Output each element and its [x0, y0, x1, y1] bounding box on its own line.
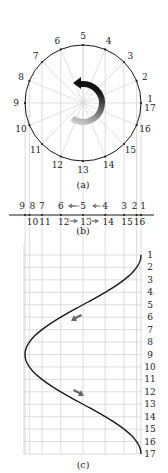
axis-lower-label: 16	[134, 217, 146, 227]
axis-upper-label: 5	[80, 201, 86, 211]
graph-row-label: 1	[147, 250, 153, 260]
circle-point-marker	[28, 80, 30, 82]
circle-point-marker	[135, 80, 137, 82]
graph-row-label: 9	[147, 350, 153, 360]
axis-upper-label: 3	[121, 201, 127, 211]
circle-point-label: 7	[33, 51, 39, 61]
arrow-left-icon	[68, 204, 80, 209]
graph-row-label: 7	[147, 325, 153, 335]
graph-row-labels: 1234567891011121314151617	[144, 250, 156, 459]
axis-point-marker	[28, 214, 30, 216]
caption-b: (b)	[76, 225, 90, 236]
axis-point-marker	[60, 214, 62, 216]
circle-point-label: 6	[54, 36, 60, 46]
graph-row-label: 12	[144, 387, 155, 397]
axis-point-marker	[24, 214, 26, 216]
axis-point-marker	[82, 214, 84, 216]
axis-upper-label: 4	[102, 201, 108, 211]
circle-point-label: 16	[139, 124, 151, 134]
axis-lower-label: 12	[58, 217, 69, 227]
circle-point-label: 14	[103, 160, 115, 170]
circle-point-label: 5	[80, 31, 86, 41]
circle-point-label: 8	[18, 72, 24, 82]
caption-a: (a)	[76, 179, 89, 190]
circle-point-label: 2	[142, 72, 148, 82]
curve-direction-arrows	[71, 314, 84, 396]
circle-point-marker	[60, 155, 62, 157]
circle-point-label: 10	[15, 124, 27, 134]
axis-upper-label: 8	[30, 201, 36, 211]
graph-row-label: 4	[147, 287, 153, 297]
circle-point-marker	[41, 61, 43, 63]
circle-point-label: 17	[144, 103, 156, 113]
graph-row-label: 16	[144, 437, 156, 447]
graph-row-label: 15	[144, 424, 156, 434]
graph-row-label: 17	[144, 449, 156, 459]
circle-point-marker	[104, 155, 106, 157]
axis-lower-label: 10	[27, 217, 39, 227]
axis-lower-label: 15	[121, 217, 133, 227]
curve-arrow-down-right-icon	[73, 389, 84, 396]
circle-point-marker	[140, 102, 142, 104]
circle-point-label: 11	[30, 145, 41, 155]
axis-upper-label: 2	[132, 201, 138, 211]
circle-point-label: 12	[52, 160, 63, 170]
circle-point-label: 3	[128, 51, 134, 61]
circle-projection-figure: 1234567891011121314151617 (a) 987654321 …	[0, 0, 168, 473]
circle-point-marker	[82, 44, 84, 46]
axis-point-marker	[104, 214, 106, 216]
graph-row-label: 2	[147, 262, 153, 272]
circle-point-marker	[24, 102, 26, 104]
axis-upper-labels: 987654321	[19, 201, 146, 211]
axis-point-marker	[123, 214, 125, 216]
graph-row-label: 13	[144, 399, 156, 409]
graph-row-label: 8	[147, 337, 153, 347]
circle-point-label: 15	[125, 145, 137, 155]
circle-point-marker	[82, 160, 84, 162]
graph-row-label: 6	[147, 312, 153, 322]
axis-point-marker	[140, 214, 142, 216]
axis-point-markers	[24, 214, 142, 216]
circle-point-marker	[135, 124, 137, 126]
circle-point-label: 13	[77, 165, 89, 175]
circle-point-marker	[123, 61, 125, 63]
axis-upper-label: 9	[19, 201, 25, 211]
graph-row-label: 10	[144, 362, 156, 372]
axis-upper-label: 7	[39, 201, 45, 211]
axis-lower-label: 11	[39, 217, 50, 227]
graph-row-label: 3	[147, 275, 153, 285]
graph-row-label: 5	[147, 300, 153, 310]
arrow-left-icon	[92, 204, 101, 209]
circle-point-marker	[104, 48, 106, 50]
axis-point-marker	[136, 214, 138, 216]
circle-point-label: 9	[13, 98, 19, 108]
caption-c: (c)	[77, 459, 90, 470]
circle-point-marker	[28, 124, 30, 126]
rotation-arrow-icon	[72, 77, 102, 122]
axis-point-marker	[41, 214, 43, 216]
graph-row-label: 11	[144, 374, 155, 384]
axis-upper-label: 1	[140, 201, 146, 211]
axis-lower-label: 14	[102, 217, 114, 227]
circle-point-label: 4	[106, 36, 112, 46]
circle-point-marker	[60, 48, 62, 50]
axis-upper-label: 6	[58, 201, 64, 211]
graph-row-label: 14	[144, 412, 156, 422]
